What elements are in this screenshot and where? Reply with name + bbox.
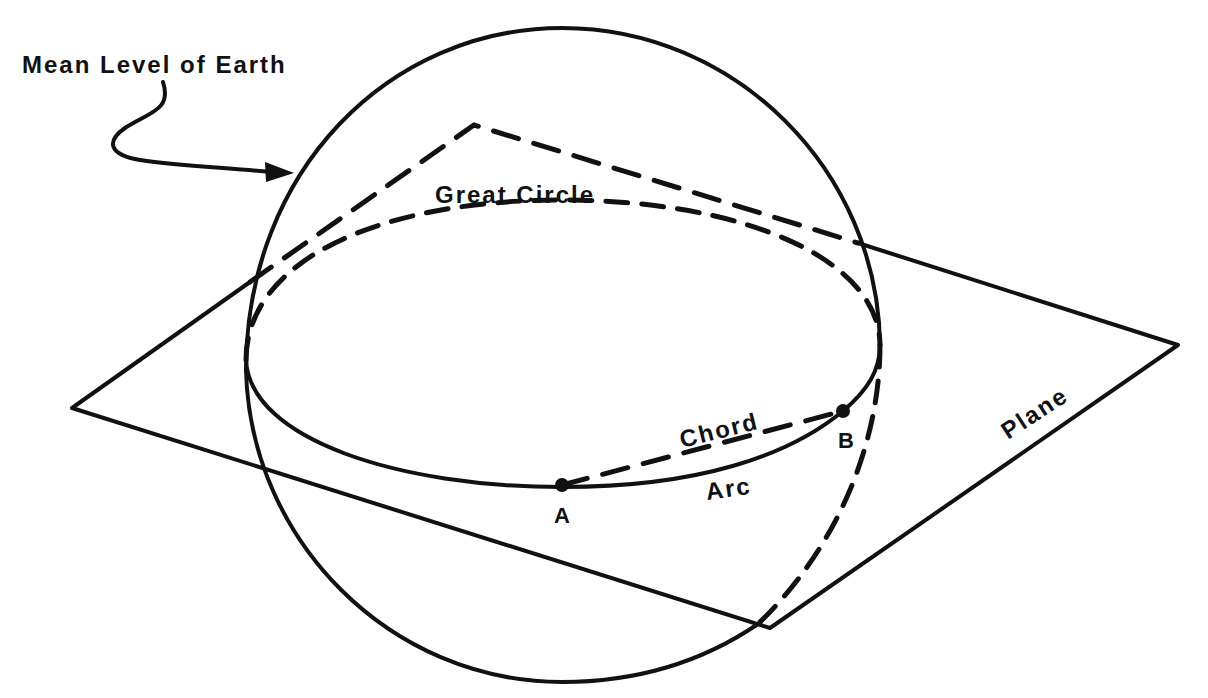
leader-arrow: [113, 82, 294, 182]
great-circle: [246, 200, 880, 487]
label-point-a: A: [554, 503, 570, 528]
label-chord: Chord: [677, 407, 762, 453]
label-plane: Plane: [996, 381, 1073, 444]
label-mean-level: Mean Level of Earth: [22, 51, 287, 78]
point-b: [836, 404, 850, 418]
point-a: [555, 478, 569, 492]
label-great-circle: Great Circle: [435, 181, 595, 208]
arrowhead-icon: [265, 162, 294, 182]
label-arc: Arc: [704, 472, 753, 505]
sphere: [246, 28, 880, 682]
sphere-plane-diagram: Mean Level of Earth Great Circle Chord A…: [0, 0, 1208, 698]
label-point-b: B: [838, 428, 854, 453]
